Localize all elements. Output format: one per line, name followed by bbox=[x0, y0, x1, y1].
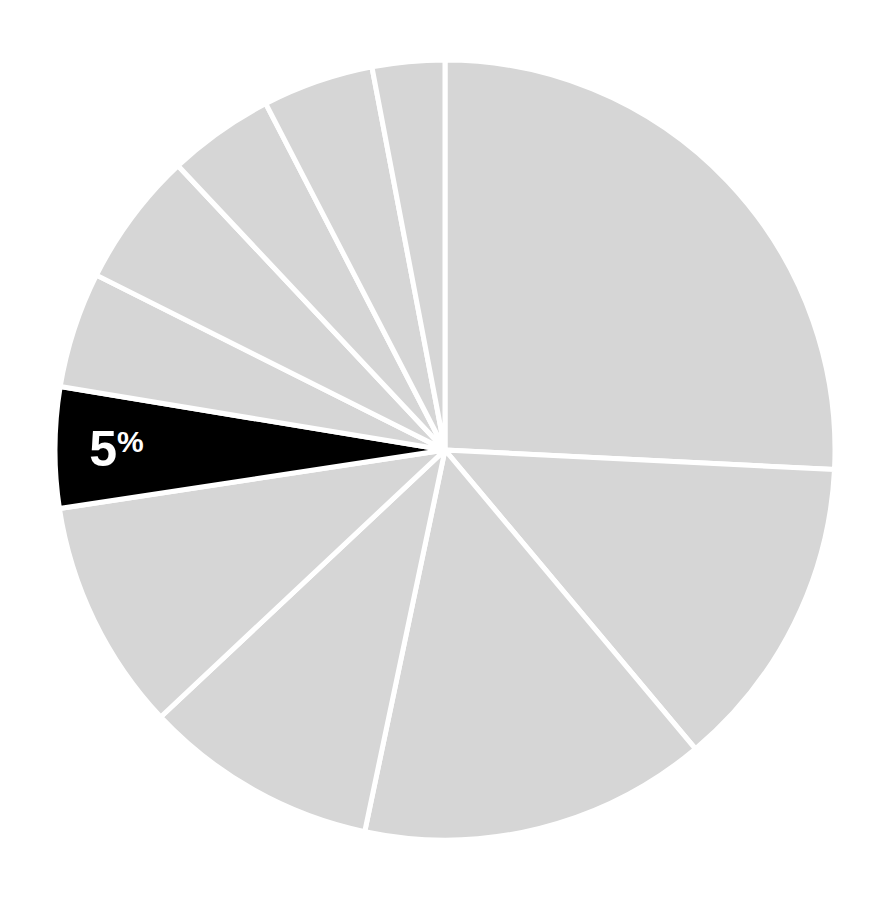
pie-slice bbox=[445, 60, 835, 470]
pie-chart: 5% bbox=[0, 0, 878, 907]
pie-slices bbox=[55, 60, 835, 840]
